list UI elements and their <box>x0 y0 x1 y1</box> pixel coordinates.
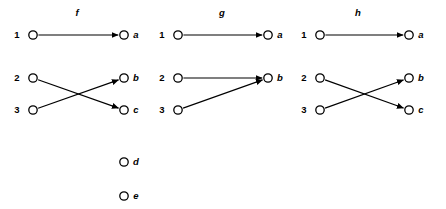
codomain-node-c <box>405 106 413 114</box>
arrow-3-to-b <box>183 80 262 108</box>
panel-g: g123ab <box>159 7 283 115</box>
domain-node-1 <box>174 31 182 39</box>
codomain-node-label-a: a <box>133 29 138 40</box>
codomain-node-c <box>120 106 128 114</box>
panel-h: h123abc <box>301 7 424 115</box>
codomain-node-a <box>264 31 272 39</box>
codomain-node-a <box>120 31 128 39</box>
panels-group: f123abcdeg123abh123abc <box>14 7 424 201</box>
codomain-node-d <box>120 158 128 166</box>
domain-node-label-3: 3 <box>159 104 164 115</box>
codomain-node-label-c: c <box>133 104 139 115</box>
codomain-node-label-b: b <box>277 72 283 83</box>
domain-node-1 <box>316 31 324 39</box>
domain-node-label-1: 1 <box>301 29 307 40</box>
codomain-node-b <box>120 74 128 82</box>
domain-node-label-3: 3 <box>301 104 306 115</box>
codomain-node-label-d: d <box>133 156 139 167</box>
codomain-node-label-b: b <box>418 72 424 83</box>
codomain-node-e <box>120 192 128 200</box>
codomain-node-label-b: b <box>133 72 139 83</box>
domain-node-label-1: 1 <box>159 29 165 40</box>
domain-node-label-2: 2 <box>301 72 306 83</box>
codomain-node-label-a: a <box>277 29 282 40</box>
domain-node-label-3: 3 <box>14 104 19 115</box>
codomain-node-label-c: c <box>418 104 424 115</box>
domain-node-3 <box>174 106 182 114</box>
codomain-node-a <box>405 31 413 39</box>
codomain-node-label-a: a <box>418 29 423 40</box>
domain-node-2 <box>174 74 182 82</box>
domain-node-label-2: 2 <box>159 72 164 83</box>
domain-node-label-2: 2 <box>14 72 19 83</box>
function-diagrams-figure: f123abcdeg123abh123abc <box>0 0 446 209</box>
domain-node-3 <box>29 106 37 114</box>
panel-f: f123abcde <box>14 7 139 201</box>
panel-title-g: g <box>218 7 225 18</box>
codomain-node-b <box>264 74 272 82</box>
domain-node-1 <box>29 31 37 39</box>
domain-node-2 <box>29 74 37 82</box>
codomain-node-label-e: e <box>133 190 139 201</box>
domain-node-2 <box>316 74 324 82</box>
panel-title-h: h <box>355 7 361 18</box>
domain-node-3 <box>316 106 324 114</box>
codomain-node-b <box>405 74 413 82</box>
domain-node-label-1: 1 <box>14 29 20 40</box>
panel-title-f: f <box>75 7 79 18</box>
diagram-canvas: f123abcdeg123abh123abc <box>0 0 446 209</box>
